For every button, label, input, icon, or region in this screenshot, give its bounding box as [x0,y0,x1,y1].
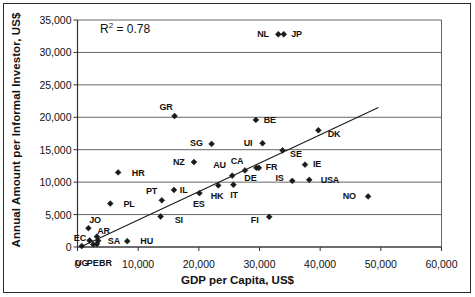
data-point-marker [260,140,266,146]
data-point-marker [171,187,177,193]
x-axis-tick-label: 10,000 [122,258,154,270]
data-point-marker [365,194,371,200]
data-point-label: SE [290,149,302,159]
data-point-label: IT [230,190,238,200]
data-point-label: HR [132,168,145,178]
r-squared-annotation: R2 = 0.78 [100,21,150,36]
data-point-label: SI [175,215,183,225]
data-point-label: IE [313,159,321,169]
data-point-marker [209,141,215,147]
data-point-marker [281,31,287,37]
data-point-label: NO [343,191,356,201]
data-point-label: IL [180,185,188,195]
x-axis-tick-label: 20,000 [183,258,215,270]
x-axis-title: GDP per Capita, US$ [0,274,475,286]
data-point-marker [79,243,85,249]
data-point-label: HK [211,191,224,201]
data-point-marker [107,201,113,207]
y-axis-tick-label: 5,000 [45,209,71,221]
data-point-marker [280,147,286,153]
data-point-marker [87,238,93,244]
data-point-label: PL [124,199,135,209]
data-point-label: USA [321,175,339,185]
data-point-label: BE [264,115,276,125]
data-point-label: GR [160,102,173,112]
r-squared-value: = 0.78 [113,22,150,36]
data-point-marker [172,113,178,119]
data-point-marker [86,225,92,231]
data-point-label: UI [244,138,253,148]
data-point-marker [231,182,237,188]
data-point-label: EC [74,233,86,243]
r-squared-base: R [100,22,109,36]
y-axis-tick-label: 35,000 [39,14,71,26]
data-point-label: NZ [173,157,185,167]
y-axis-tick-label: 10,000 [39,176,71,188]
data-point-label: BR [99,258,112,268]
data-point-marker [253,117,259,123]
data-point-marker [275,31,281,37]
data-point-marker [315,127,321,133]
y-axis-tick-label: 0 [66,241,72,253]
data-point-marker [115,170,121,176]
data-point-marker [302,162,308,168]
data-point-label: HU [140,236,153,246]
data-point-marker [159,197,165,203]
y-axis-tick-label: 20,000 [39,111,71,123]
data-point-label: SG [190,138,203,148]
y-axis-tick-label: 30,000 [39,46,71,58]
y-axis-title-wrapper: Annual Amount per Informal Investor, US$ [6,0,26,260]
data-point-label: FI [251,215,259,225]
data-point-label: FR [266,162,278,172]
data-point-marker [124,238,130,244]
data-point-label: SA [108,236,120,246]
data-point-label: JO [89,215,101,225]
x-axis-tick-label: 30,000 [243,258,275,270]
y-axis-title: Annual Amount per Informal Investor, US$ [10,13,22,248]
y-axis-tick-label: 15,000 [39,144,71,156]
data-point-label: AR [97,226,110,236]
data-point-label: AU [213,160,226,170]
x-axis-tick-label: 40,000 [304,258,336,270]
data-point-label: JP [291,29,302,39]
data-point-label: PE [87,258,99,268]
data-point-marker [191,159,197,165]
y-axis-tick-label: 25,000 [39,79,71,91]
data-point-marker [289,178,295,184]
data-point-marker [197,190,203,196]
x-axis-tick-label: 50,000 [365,258,397,270]
data-point-label: DK [328,129,341,139]
data-point-label: NL [257,29,269,39]
data-point-label: ES [193,199,205,209]
data-point-label: PT [146,186,157,196]
data-point-label: CA [231,156,244,166]
data-point-label: DE [244,173,256,183]
scatter-chart-figure: Annual Amount per Informal Investor, US$… [0,0,475,297]
data-point-label: IS [275,173,283,183]
data-point-marker [229,173,235,179]
x-axis-tick-label: 60,000 [425,258,457,270]
